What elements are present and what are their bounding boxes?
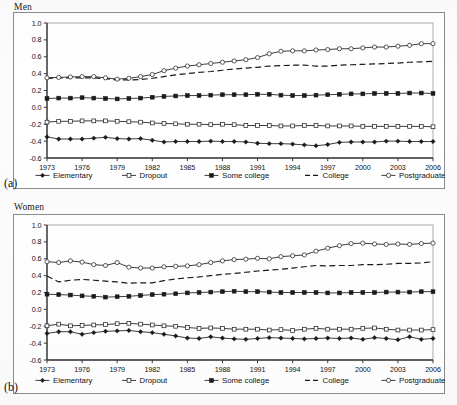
series-point xyxy=(209,335,213,339)
series-point xyxy=(209,123,213,127)
series-point xyxy=(384,92,388,96)
series-point xyxy=(255,55,259,59)
legend-item-some-college[interactable]: Some college xyxy=(205,171,270,180)
series-point xyxy=(419,337,423,341)
series-point xyxy=(349,92,353,96)
series-point xyxy=(279,49,283,53)
series-point xyxy=(115,136,119,140)
series-point xyxy=(337,336,341,340)
series-point xyxy=(150,293,154,297)
series-point xyxy=(150,138,154,142)
series-point xyxy=(349,291,353,295)
series-point xyxy=(314,93,318,97)
panel-title-men: Men xyxy=(14,2,32,12)
legend-item-elementary[interactable]: Elementary xyxy=(36,171,93,180)
series-point xyxy=(396,92,400,96)
series-point xyxy=(419,91,423,95)
series-point xyxy=(45,292,49,296)
series-point xyxy=(92,74,96,78)
y-tick-label: 0.4 xyxy=(32,69,42,78)
series-point xyxy=(174,264,178,268)
series-point xyxy=(221,122,225,126)
series-point xyxy=(384,290,388,294)
series-point xyxy=(185,264,189,268)
series-point xyxy=(138,330,142,334)
series-point xyxy=(221,290,225,294)
series-point xyxy=(57,75,61,79)
series-point xyxy=(115,295,119,299)
series-point xyxy=(373,326,377,330)
series-point xyxy=(244,257,248,261)
legend-item-dropout[interactable]: Dropout xyxy=(122,171,168,180)
series-point xyxy=(57,260,61,264)
series-point xyxy=(104,323,108,327)
chart-women: 1.00.80.60.40.20.0-0.2-0.4-0.61973197619… xyxy=(13,214,445,394)
series-point xyxy=(45,324,49,328)
series-point xyxy=(197,291,201,295)
series-point xyxy=(80,260,84,264)
series-point xyxy=(209,326,213,330)
legend-item-postgraduate[interactable]: Postgraduate xyxy=(382,376,446,385)
series-point xyxy=(255,336,259,340)
legend-item-dropout[interactable]: Dropout xyxy=(122,376,168,385)
series-point xyxy=(384,45,388,49)
series-point xyxy=(68,293,72,297)
series-point xyxy=(45,260,49,264)
series-point xyxy=(337,140,341,144)
series-point xyxy=(174,292,178,296)
series-point xyxy=(56,137,60,141)
series-point xyxy=(185,94,189,98)
chart-men: 1.00.80.60.40.20.0-0.2-0.4-0.61973197619… xyxy=(13,12,445,189)
series-point xyxy=(232,59,236,63)
series-point xyxy=(127,120,131,124)
series-point xyxy=(326,47,330,51)
legend-marker xyxy=(40,378,44,382)
series-point xyxy=(162,292,166,296)
series-point xyxy=(197,94,201,98)
series-point xyxy=(57,96,61,100)
y-axis-ticks: 1.00.80.60.40.20.0-0.2-0.4-0.6 xyxy=(30,19,48,163)
series-point xyxy=(92,294,96,298)
series-some-college xyxy=(45,289,435,299)
legend-item-college[interactable]: College xyxy=(305,376,349,385)
series-point xyxy=(419,328,423,332)
series-point xyxy=(338,327,342,331)
series-point xyxy=(279,255,283,259)
series-point xyxy=(127,97,131,101)
legend-item-elementary[interactable]: Elementary xyxy=(36,376,93,385)
series-point xyxy=(384,242,388,246)
series-point xyxy=(68,259,72,263)
series-point xyxy=(302,124,306,128)
y-tick-label: -0.6 xyxy=(30,154,42,163)
series-point xyxy=(150,266,154,270)
series-point xyxy=(209,93,213,97)
legend-item-postgraduate[interactable]: Postgraduate xyxy=(382,171,446,180)
series-point xyxy=(326,327,330,331)
series-point xyxy=(279,93,283,97)
series-point xyxy=(396,290,400,294)
series-point xyxy=(256,327,260,331)
series-point xyxy=(92,263,96,267)
series-point xyxy=(138,136,142,140)
y-tick-label: 0.4 xyxy=(32,271,42,280)
series-point xyxy=(209,139,213,143)
series-point xyxy=(185,291,189,295)
series-point xyxy=(150,95,154,99)
series-point xyxy=(431,241,435,245)
legend-item-college[interactable]: College xyxy=(305,171,349,180)
x-tick-label: 2003 xyxy=(390,365,406,374)
y-tick-label: -0.4 xyxy=(30,339,42,348)
series-group xyxy=(45,42,435,148)
series-point xyxy=(174,324,178,328)
legend-item-some-college[interactable]: Some college xyxy=(205,376,270,385)
y-tick-label: 0.6 xyxy=(32,52,42,61)
series-point xyxy=(291,124,295,128)
series-point xyxy=(80,96,84,100)
x-tick-label: 2000 xyxy=(355,365,371,374)
x-tick-label: 1976 xyxy=(74,365,90,374)
series-point xyxy=(68,119,72,123)
panel-women: Women (b) 1.00.80.60.40.20.0-0.2-0.4-0.6… xyxy=(0,200,457,405)
series-point xyxy=(80,137,84,141)
series-point xyxy=(103,135,107,139)
series-point xyxy=(349,140,353,144)
